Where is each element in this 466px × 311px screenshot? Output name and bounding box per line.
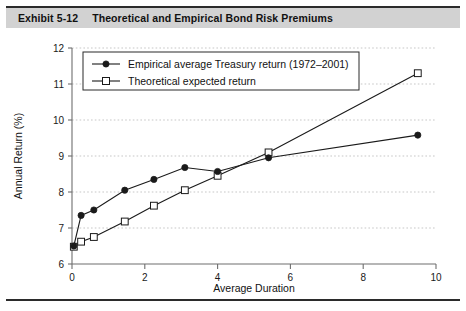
- y-tick-label-6: 6: [58, 259, 64, 270]
- data-point: [215, 168, 221, 174]
- x-axis-ticks-group: [72, 264, 436, 269]
- data-point: [90, 234, 97, 241]
- legend-marker-open-square: [103, 78, 110, 85]
- y-tick-label-10: 10: [53, 115, 65, 126]
- y-axis-ticks-group: [68, 48, 72, 264]
- data-point: [414, 70, 421, 77]
- data-point: [182, 164, 188, 170]
- data-point: [71, 243, 77, 249]
- exhibit-title: Theoretical and Empirical Bond Risk Prem…: [92, 12, 333, 24]
- legend-label-theoretical: Theoretical expected return: [128, 75, 256, 87]
- y-tick-label-11: 11: [54, 79, 65, 90]
- data-point: [78, 212, 84, 218]
- x-tick-label-0: 0: [69, 272, 75, 283]
- x-tick-label-10: 10: [430, 272, 442, 283]
- bottom-rule: [6, 299, 460, 301]
- y-tick-label-9: 9: [58, 151, 64, 162]
- x-axis-title: Average Duration: [213, 282, 295, 294]
- y-tick-label-8: 8: [58, 187, 64, 198]
- x-tick-label-2: 2: [142, 272, 148, 283]
- legend-label-empirical: Empirical average Treasury return (1972–…: [128, 58, 349, 70]
- data-point: [181, 187, 188, 194]
- series-theoretical-expected-return: [70, 70, 421, 250]
- exhibit-header-banner: Exhibit 5-12 Theoretical and Empirical B…: [6, 6, 460, 28]
- bond-risk-premium-chart: 6789101112 0246810 Average Duration Annu…: [0, 32, 466, 294]
- x-tick-label-8: 8: [360, 272, 366, 283]
- y-axis-title: Annual Return (%): [12, 113, 24, 199]
- data-point: [151, 176, 157, 182]
- data-point: [265, 155, 271, 161]
- y-tick-label-12: 12: [53, 43, 65, 54]
- data-point: [121, 218, 128, 225]
- data-point: [415, 132, 421, 138]
- data-point: [91, 207, 97, 213]
- legend-marker-filled-circle: [103, 61, 109, 67]
- data-point: [151, 202, 158, 209]
- series-empirical-average-treasury-return: [71, 132, 421, 249]
- y-axis-tick-labels-group: 6789101112: [53, 43, 65, 270]
- exhibit-number-label: Exhibit 5-12: [18, 12, 78, 24]
- y-tick-label-7: 7: [58, 223, 64, 234]
- chart-canvas: 6789101112 0246810 Average Duration Annu…: [0, 32, 466, 294]
- data-point: [78, 238, 85, 245]
- data-point: [122, 187, 128, 193]
- chart-legend: Empirical average Treasury return (1972–…: [83, 52, 359, 90]
